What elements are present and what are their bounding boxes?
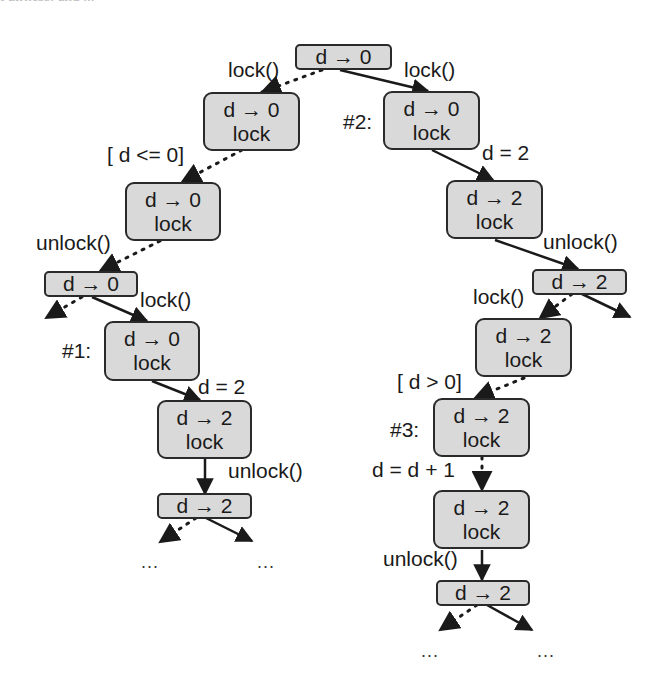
node-lock: lock bbox=[448, 210, 541, 234]
node-state: d → 0 bbox=[106, 327, 198, 351]
node-state: d → 2 bbox=[435, 404, 528, 428]
node-state: d → 0 bbox=[46, 273, 136, 295]
ellipsis-left-branch-right: ... bbox=[257, 552, 275, 573]
edge-l6-right bbox=[206, 518, 252, 541]
edge-r3-r4 bbox=[540, 294, 572, 318]
edge-label-l5-l6: unlock() bbox=[228, 459, 303, 483]
edge-l4-l5 bbox=[152, 381, 200, 400]
node-state: d → 2 bbox=[477, 324, 570, 348]
edge-l1-l2 bbox=[182, 150, 242, 182]
ellipsis-right-branch-right: ... bbox=[537, 641, 555, 662]
node-state: d → 0 bbox=[385, 97, 478, 121]
edge-label-l2-l3: unlock() bbox=[36, 231, 111, 255]
node-lock: lock bbox=[477, 348, 570, 372]
edge-label-r4-r5: [ d > 0] bbox=[397, 370, 462, 394]
edge-r4-r5 bbox=[475, 378, 524, 398]
node-l5: d → 2 lock bbox=[157, 400, 252, 459]
edge-l3-l4 bbox=[92, 297, 147, 321]
node-l2: d → 0 lock bbox=[125, 182, 221, 241]
node-l6: d → 2 bbox=[157, 493, 252, 519]
node-state: d → 2 bbox=[438, 582, 528, 604]
tag-1: #1: bbox=[62, 339, 91, 363]
node-r2: d → 2 lock bbox=[446, 180, 543, 239]
edge-label-root-l1: lock() bbox=[228, 58, 279, 82]
node-state: d → 2 bbox=[448, 186, 541, 210]
node-r1: d → 0 lock bbox=[383, 91, 480, 150]
edge-l6-left bbox=[160, 518, 196, 542]
tag-3: #3: bbox=[390, 418, 419, 442]
node-state: d → 2 bbox=[159, 406, 250, 430]
node-r6: d → 2 lock bbox=[433, 490, 530, 549]
node-lock: lock bbox=[385, 121, 478, 145]
node-lock: lock bbox=[435, 520, 528, 544]
ellipsis-left-branch-left: ... bbox=[141, 552, 159, 573]
node-state: d → 2 bbox=[435, 496, 528, 520]
node-lock: lock bbox=[127, 212, 219, 236]
edge-label-r5-r6: d = d + 1 bbox=[372, 458, 455, 482]
edge-label-r3-r4: lock() bbox=[473, 285, 524, 309]
edge-label-root-r1: lock() bbox=[404, 58, 455, 82]
node-state: d → 0 bbox=[127, 188, 219, 212]
node-r7: d → 2 bbox=[436, 580, 530, 606]
node-l1: d → 0 lock bbox=[203, 92, 300, 151]
edge-l3-off bbox=[46, 297, 82, 318]
edge-r7-right bbox=[487, 605, 532, 630]
edge-r3-off bbox=[582, 294, 630, 317]
node-l4: d → 0 lock bbox=[104, 321, 200, 381]
node-r3: d → 2 bbox=[532, 269, 627, 295]
edge-label-r6-r7: unlock() bbox=[383, 547, 458, 571]
node-root: d → 0 bbox=[295, 44, 392, 70]
node-l3: d → 0 bbox=[44, 271, 138, 297]
edge-label-r2-r3: unlock() bbox=[543, 230, 618, 254]
edge-r7-left bbox=[440, 605, 477, 630]
edge-label-l3-l4: lock() bbox=[140, 288, 191, 312]
edge-label-r1-r2: d = 2 bbox=[482, 141, 529, 165]
node-state: d → 2 bbox=[159, 495, 250, 517]
edge-label-l4-l5: d = 2 bbox=[198, 375, 245, 399]
node-r4: d → 2 lock bbox=[475, 318, 572, 377]
node-lock: lock bbox=[106, 351, 198, 375]
node-state: d → 0 bbox=[205, 98, 298, 122]
node-state: d → 2 bbox=[534, 271, 625, 293]
node-lock: lock bbox=[205, 122, 298, 146]
node-lock: lock bbox=[435, 428, 528, 452]
tag-2: #2: bbox=[343, 110, 372, 134]
node-state: d → 0 bbox=[297, 46, 390, 68]
edge-label-l1-l2: [ d <= 0] bbox=[107, 143, 184, 167]
ellipsis-right-branch-left: ... bbox=[421, 641, 439, 662]
node-lock: lock bbox=[159, 430, 250, 454]
node-r5: d → 2 lock bbox=[433, 398, 530, 457]
state-space-diagram: Fairness: and ... bbox=[0, 0, 664, 697]
